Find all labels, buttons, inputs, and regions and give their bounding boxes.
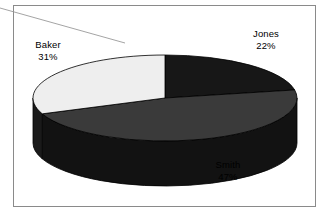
pie-label-smith-value: 47% — [198, 171, 258, 183]
screenshot-canvas: Jones 22% Baker 31% Smith 47% — [0, 0, 333, 218]
pie-label-baker-name: Baker — [18, 39, 78, 51]
pie-label-jones-value: 22% — [236, 40, 296, 52]
pie-label-smith-name: Smith — [198, 159, 258, 171]
pie-label-smith: Smith 47% — [198, 159, 258, 183]
pie-label-baker-value: 31% — [18, 51, 78, 63]
pie-label-jones-name: Jones — [236, 28, 296, 40]
pie-label-baker: Baker 31% — [18, 39, 78, 63]
pie-label-jones: Jones 22% — [236, 28, 296, 52]
